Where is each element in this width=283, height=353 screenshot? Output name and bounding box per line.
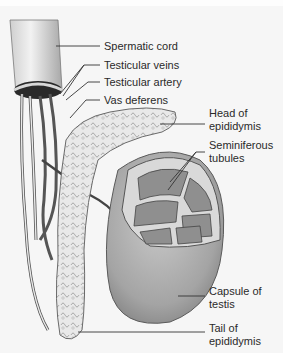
- label-testicular-veins: Testicular veins: [104, 59, 179, 72]
- label-spermatic-cord: Spermatic cord: [104, 40, 178, 53]
- label-testicular-artery: Testicular artery: [104, 76, 182, 89]
- label-tail-of-epididymis: Tail of epididymis: [209, 322, 261, 348]
- label-vas-deferens: Vas deferens: [104, 94, 168, 107]
- label-seminiferous-tubules: Seminiferous tubules: [209, 139, 273, 165]
- testis-shape: [106, 152, 223, 323]
- label-capsule-of-testis: Capsule of testis: [209, 285, 262, 311]
- label-head-of-epididymis: Head of epididymis: [209, 107, 261, 133]
